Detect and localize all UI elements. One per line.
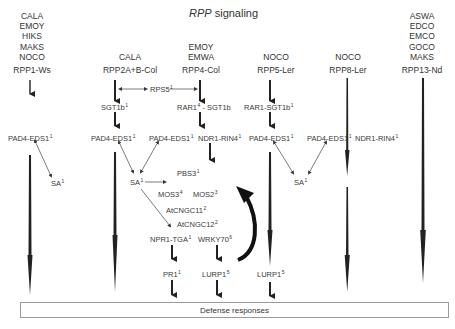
node-sup: 1 [170, 84, 173, 90]
node-sup: 1 [178, 269, 181, 275]
node-text: LURP1 [202, 270, 226, 279]
node-text: PBS3 [177, 169, 196, 178]
node-pad4-eds1-rpp2: PAD4-EDS11 [91, 134, 135, 143]
node-sup: 1 [197, 168, 200, 174]
node-sup: 1 [50, 133, 53, 139]
node-text: PAD4-EDS1 [307, 134, 348, 143]
node-sup: 1 [291, 133, 294, 139]
node-sup: 4 [180, 189, 183, 195]
node-sgt1b: SGT1b1 [101, 103, 128, 112]
node-rps5: RPS51 [150, 85, 173, 94]
node-text: LURP1 [257, 270, 281, 279]
node-sa-2: SA1 [130, 178, 143, 187]
node-text: NDR1-RIN4 [355, 134, 395, 143]
node-wrky70: WRKY706 [198, 235, 232, 244]
node-atcngc11: AtCNGC112 [166, 206, 206, 215]
node-text: MOS2 [193, 190, 214, 199]
defense-label: Defense responses [200, 306, 269, 315]
node-text: SA [130, 178, 140, 187]
node-sa-3: SA1 [294, 178, 307, 187]
node-sup: 2 [215, 219, 218, 225]
node-text: SA [294, 178, 304, 187]
node-text: AtCNGC11 [166, 206, 203, 215]
node-sup: 1 [305, 177, 308, 183]
node-atcngc12: AtCNGC122 [177, 220, 218, 229]
node-sup: 1 [191, 133, 194, 139]
node-npr1-tga: NPR1-TGA1 [150, 235, 191, 244]
node-pbs3: PBS31 [177, 169, 199, 178]
node-ndr1-rin4-rpp4: NDR1-RIN41 [198, 134, 241, 143]
node-pr1: PR11 [163, 270, 181, 279]
node-text: SGT1b [101, 103, 125, 112]
node-sup: 1 [396, 133, 399, 139]
node-text: RPS5 [150, 85, 170, 94]
defense-responses-box: Defense responses [20, 302, 449, 318]
node-pad4-eds1-rpp5: PAD4-EDS11 [249, 134, 293, 143]
node-text: PAD4-EDS1 [91, 134, 132, 143]
node-text-tail: - SGT1b [200, 103, 230, 112]
node-text: WRKY70 [198, 235, 229, 244]
node-text: AtCNGC12 [177, 220, 215, 229]
node-sup: 1 [125, 102, 128, 108]
node-ndr1-rin4-rpp8: NDR1-RIN41 [355, 134, 398, 143]
node-text: PR1 [163, 270, 178, 279]
node-pad4-eds1-rpp8: PAD4-EDS11 [307, 134, 351, 143]
node-sup: 1 [291, 102, 294, 108]
node-text: NDR1-RIN4 [198, 134, 238, 143]
node-sup: 2 [203, 205, 206, 211]
node-text: PAD4-EDS1 [149, 134, 190, 143]
node-sa-1: SA1 [51, 179, 64, 188]
node-text: SA [51, 179, 61, 188]
node-sup: 1 [141, 177, 144, 183]
node-sup: 1 [239, 133, 242, 139]
node-text: PAD4-EDS1 [8, 134, 49, 143]
node-text: RAR1 [177, 103, 197, 112]
node-mos2: MOS23 [193, 190, 218, 199]
node-sup: 5 [282, 269, 285, 275]
arrows-layer [0, 0, 455, 329]
node-lurp1-b: LURP15 [257, 270, 284, 279]
node-text: MOS3 [158, 190, 179, 199]
node-sup: 1 [349, 133, 352, 139]
node-lurp1-a: LURP15 [202, 270, 229, 279]
node-text: RAR1-SGT1b [244, 103, 290, 112]
node-text: NPR1-TGA [150, 235, 188, 244]
node-sup: 3 [215, 189, 218, 195]
node-sup: 6 [229, 234, 232, 240]
node-pad4-eds1-rpp1: PAD4-EDS11 [8, 134, 52, 143]
node-sup: 1 [62, 178, 65, 184]
node-sup: 5 [227, 269, 230, 275]
node-sup: 1 [133, 133, 136, 139]
node-sup: 1 [188, 234, 191, 240]
node-rar1-sgt1b: RAR14 - SGT1b [177, 103, 231, 112]
node-pad4-eds1-rpp4: PAD4-EDS11 [149, 134, 193, 143]
node-rar1-sgt1b-rpp5: RAR1-SGT1b1 [244, 103, 294, 112]
node-text: PAD4-EDS1 [249, 134, 290, 143]
node-mos3: MOS34 [158, 190, 183, 199]
